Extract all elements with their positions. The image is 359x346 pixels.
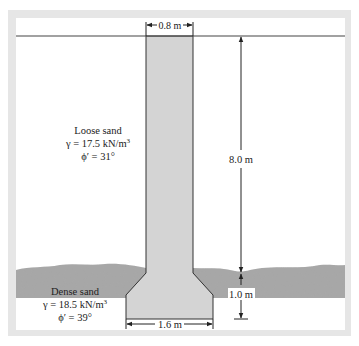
loose-sand-gamma: γ = 17.5 kN/m3 xyxy=(65,137,131,149)
length-label: 8.0 m xyxy=(229,154,253,165)
top-width-label: 0.8 m xyxy=(159,20,182,31)
dense-sand-gamma-text: γ = 18.5 kN/m xyxy=(42,299,104,310)
dense-sand-gamma-exp: 3 xyxy=(104,298,108,306)
dense-sand-gamma: γ = 18.5 kN/m3 xyxy=(42,298,108,310)
loose-sand-name: Loose sand xyxy=(74,125,122,136)
loose-sand-gamma-text: γ = 17.5 kN/m xyxy=(65,138,127,149)
loose-sand-phi: ϕ′ = 31° xyxy=(81,151,115,162)
base-width-label: 1.6 m xyxy=(158,319,182,330)
dense-sand-name: Dense sand xyxy=(51,286,100,297)
bell-height-label: 1.0 m xyxy=(229,289,253,300)
dense-sand-phi: ϕ′ = 39° xyxy=(58,312,92,323)
loose-sand-gamma-exp: 3 xyxy=(127,137,131,145)
pile-diagram: 0.8 m 8.0 m 1.0 m 1.6 m Loose sand γ = 1… xyxy=(0,0,359,346)
